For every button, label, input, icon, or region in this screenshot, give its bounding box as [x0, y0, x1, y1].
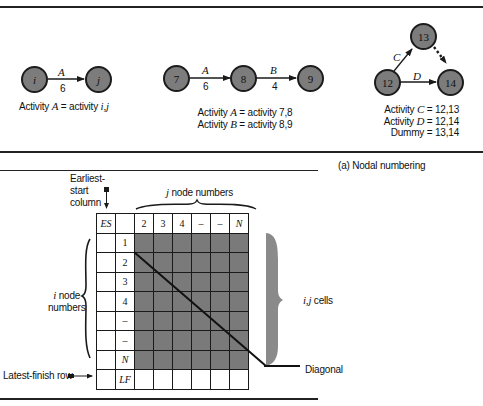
short-rule: [0, 170, 318, 171]
bottom-rule: [0, 398, 318, 400]
i-node-numbers-label: i node numbers: [48, 289, 86, 314]
earliest-start-label: Earliest- start column: [70, 173, 105, 209]
node-12: 12: [374, 69, 401, 96]
node-label: i: [33, 74, 36, 86]
latest-finish-label: Latest-finish row: [3, 370, 72, 382]
ij-cells-label: i,j cells: [303, 294, 333, 307]
activity-label-A2: A: [202, 64, 209, 76]
grid-row: –: [97, 311, 249, 331]
grid-header-row: ES 2 3 4 – – N: [97, 214, 249, 234]
caption-var: A: [230, 106, 237, 118]
header-es: ES: [97, 214, 116, 234]
brace-ij: [266, 233, 283, 366]
caption-prefix: Activity: [198, 119, 228, 130]
activity-label-A: A: [58, 66, 65, 78]
row-label: –: [116, 311, 135, 331]
row-label: N: [116, 350, 135, 370]
row-label: 3: [116, 272, 135, 292]
grid-row: N: [97, 350, 249, 370]
node-14: 14: [437, 69, 464, 96]
caption-diagram1: Activity A = activity i,j: [19, 100, 109, 113]
node-13: 13: [410, 23, 437, 50]
caption-rest: = 13,14: [427, 127, 459, 138]
diagonal-label: Diagonal: [305, 364, 343, 376]
row-label: 2: [116, 253, 135, 273]
label-line: numbers: [48, 302, 86, 314]
activity-label-D: D: [413, 70, 421, 82]
row-label: LF: [116, 370, 135, 390]
caption-var: D: [416, 115, 424, 127]
node-label: 7: [174, 73, 180, 85]
duration-label-A2: 6: [203, 81, 208, 93]
node-j: j: [85, 66, 112, 93]
row-label: 4: [116, 292, 135, 312]
caption-var: B: [230, 118, 237, 130]
node-label: 13: [418, 31, 429, 43]
caption-rest: = activity 8,9: [239, 119, 292, 130]
activity-label-C: C: [393, 51, 400, 63]
caption-prefix: Activity: [384, 116, 414, 127]
middle-rule: [0, 151, 483, 153]
label-rest: cells: [311, 295, 333, 306]
label-rest: node: [56, 290, 80, 301]
header-blank: [116, 214, 135, 234]
label-line: Earliest-: [70, 173, 105, 185]
caption-prefix: Activity: [384, 104, 414, 115]
node-label: j: [97, 74, 100, 86]
header-j: 3: [154, 214, 173, 234]
label-line: column: [70, 197, 105, 209]
grid-row: 1: [97, 233, 249, 253]
grid-row: –: [97, 331, 249, 351]
brace-j: [136, 200, 256, 209]
duration-label: 6: [60, 83, 65, 95]
duration-label-B: 4: [272, 81, 277, 93]
latest-finish-row: LF: [97, 370, 249, 390]
grid-row: 2: [97, 253, 249, 273]
caption-diagram2-line2: Activity B = activity 8,9: [190, 118, 300, 131]
node-label: 8: [241, 73, 247, 85]
header-j: 2: [135, 214, 154, 234]
j-node-numbers-label: j node numbers: [166, 186, 233, 199]
caption-rest: = 12,13: [427, 104, 459, 115]
header-j: –: [211, 214, 230, 234]
caption-val: i,j: [101, 100, 109, 112]
grid-row: 4: [97, 292, 249, 312]
caption-prefix: Dummy: [391, 127, 424, 138]
caption-prefix: Activity: [19, 101, 49, 112]
node-label: 9: [308, 73, 314, 85]
caption-rest: = activity 7,8: [239, 107, 292, 118]
grid-row: 3: [97, 272, 249, 292]
caption-prefix: Activity: [198, 107, 228, 118]
caption-eq: = activity: [61, 101, 98, 112]
node-label: 12: [382, 77, 393, 89]
node-label: 14: [445, 77, 456, 89]
caption-var: C: [417, 103, 424, 115]
caption-rest: = 12,14: [427, 116, 459, 127]
node-7: 7: [163, 65, 190, 92]
row-label: –: [116, 331, 135, 351]
header-j: 4: [173, 214, 192, 234]
header-j: N: [230, 214, 249, 234]
caption-diagram3-line3: Dummy = 13,14: [370, 127, 459, 139]
label-rest: node numbers: [169, 187, 233, 198]
node-8: 8: [230, 65, 257, 92]
activity-label-B: B: [270, 64, 277, 76]
caption-var: A: [52, 100, 59, 112]
row-label: 1: [116, 233, 135, 253]
node-i: i: [21, 66, 48, 93]
dummy-arrow-13-14: [431, 43, 446, 63]
panel-a-caption: (a) Nodal numbering: [338, 160, 425, 172]
header-j: –: [192, 214, 211, 234]
label-line: start: [70, 185, 105, 197]
node-9: 9: [297, 65, 324, 92]
nodal-matrix-grid: ES 2 3 4 – – N 1 2 3 4 – – N LF: [96, 213, 249, 390]
